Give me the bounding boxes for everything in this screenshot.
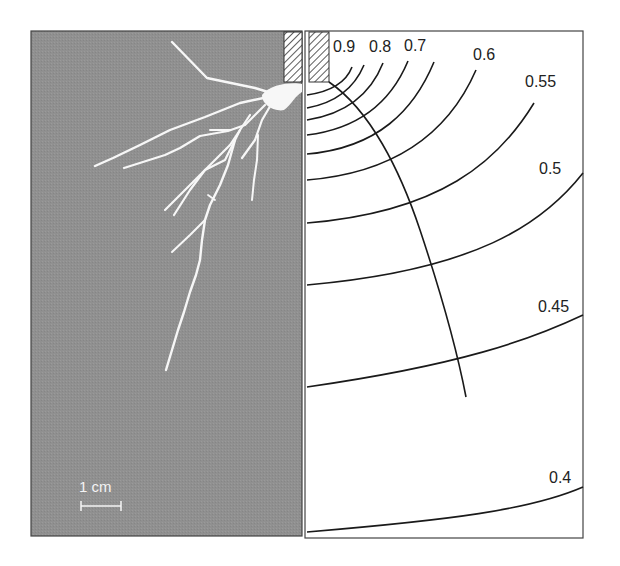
contour-label-0-55: 0.55 xyxy=(525,73,556,90)
contour-label-0-4: 0.4 xyxy=(549,469,571,486)
hatched-block-left xyxy=(284,32,302,82)
contour-label-0-45: 0.45 xyxy=(538,298,569,315)
contour-label-0-9: 0.9 xyxy=(333,38,355,55)
contour-label-0-5: 0.5 xyxy=(539,160,561,177)
contour-map-panel: 0.9 0.8 0.7 0.6 0.55 0.5 0.45 0.4 xyxy=(305,31,583,538)
root-photo-panel: 1 cm xyxy=(31,31,302,536)
figure: 1 cm 0.9 0.8 0.7 0.6 0.55 xyxy=(0,0,620,566)
hatched-block-right xyxy=(309,32,329,82)
contour-label-0-6: 0.6 xyxy=(473,46,495,63)
scale-bar-label: 1 cm xyxy=(79,478,112,495)
contour-label-0-8: 0.8 xyxy=(369,38,391,55)
contour-label-0-7: 0.7 xyxy=(404,37,426,54)
